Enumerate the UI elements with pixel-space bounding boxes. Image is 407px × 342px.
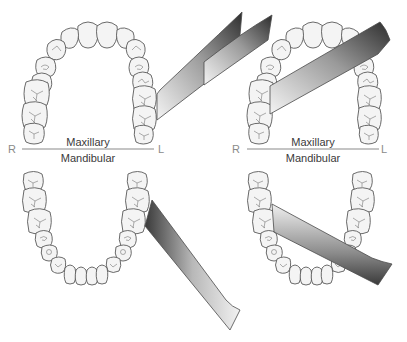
mandibular-arch-teeth xyxy=(23,172,150,286)
maxillary-arch-teeth xyxy=(22,22,156,144)
lower-instrument-icon xyxy=(145,200,240,330)
mandibular-label: Mandibular xyxy=(61,152,116,164)
maxillary-label: Maxillary xyxy=(291,136,335,148)
mandibular-label: Mandibular xyxy=(286,152,341,164)
right-side-label: R xyxy=(8,143,16,155)
dental-arch-diagram: R L Maxillary Mandibular R L Maxillary M… xyxy=(0,0,407,342)
maxillary-label: Maxillary xyxy=(66,136,110,148)
left-side-label: L xyxy=(381,143,387,155)
right-side-label: R xyxy=(232,143,240,155)
left-side-label: L xyxy=(158,143,164,155)
right-panel: R L Maxillary Mandibular xyxy=(204,15,392,285)
